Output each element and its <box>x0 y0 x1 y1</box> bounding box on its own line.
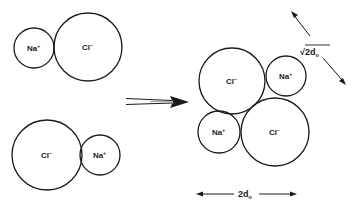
cl-ion-label: Cl− <box>226 76 237 86</box>
cluster-cl-bottom-right: Cl− <box>241 98 309 166</box>
cl-ion-label: Cl− <box>269 127 280 137</box>
horizontal-dimension-label: 2do <box>238 189 253 200</box>
na-ion-label: Na+ <box>93 150 106 160</box>
na-ion-label: Na+ <box>279 71 292 81</box>
ion-pair-top: Na+ Cl− <box>14 13 122 81</box>
diagonal-arrowhead-down-icon <box>339 78 346 85</box>
diagonal-dimension: √2do <box>291 11 346 85</box>
arrow-head <box>170 96 189 108</box>
arrow-shaft-upper <box>126 99 172 101</box>
na-ion-label: Na+ <box>212 127 225 137</box>
diagonal-arrowhead-up-icon <box>291 11 298 18</box>
cl-ion-label: Cl− <box>41 150 52 160</box>
ion-cl-bottom-pair: Cl− <box>12 120 82 190</box>
ion-cl-top-pair: Cl− <box>54 13 122 81</box>
horizontal-arrowhead-right-icon <box>290 192 297 197</box>
ion-pair-bottom: Cl− Na+ <box>12 120 120 190</box>
diagonal-dimension-label: √2do <box>300 47 319 58</box>
ion-na-bottom-pair: Na+ <box>80 135 120 175</box>
diagonal-arrow-line-upper <box>293 14 310 36</box>
cl-ion-label: Cl− <box>82 42 93 52</box>
nacl-dimer-diagram: Na+ Cl− Cl− Na+ Cl− Na+ <box>0 0 355 213</box>
diagonal-arrow-line-lower <box>323 58 343 81</box>
horizontal-arrowhead-left-icon <box>196 192 203 197</box>
horizontal-dimension: 2do <box>196 189 297 200</box>
cluster-na-top-right: Na+ <box>266 56 306 96</box>
arrow-shaft-lower <box>126 103 172 105</box>
ion-na-top-pair: Na+ <box>14 28 54 68</box>
cluster-na-bottom-left: Na+ <box>198 111 240 153</box>
nacl-cluster: Cl− Na+ Na+ Cl− <box>198 48 309 166</box>
reaction-arrow-icon <box>126 96 189 108</box>
na-ion-label: Na+ <box>27 43 40 53</box>
